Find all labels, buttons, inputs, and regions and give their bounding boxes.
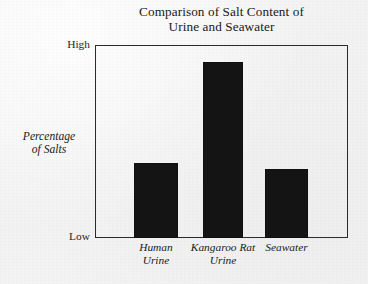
x-axis-category-labels: Human UrineKangaroo Rat UrineSeawater — [95, 241, 348, 281]
plot-area-frame — [95, 45, 348, 238]
bar-chart-figure: Comparison of Salt Content of Urine and … — [0, 0, 368, 284]
x-axis-category-label: Seawater — [247, 241, 327, 254]
chart-title: Comparison of Salt Content of Urine and … — [95, 5, 348, 34]
y-axis-tick-high: High — [20, 38, 90, 50]
y-axis-label: Percentage of Salts — [8, 130, 90, 157]
y-axis-tick-low: Low — [20, 230, 90, 242]
